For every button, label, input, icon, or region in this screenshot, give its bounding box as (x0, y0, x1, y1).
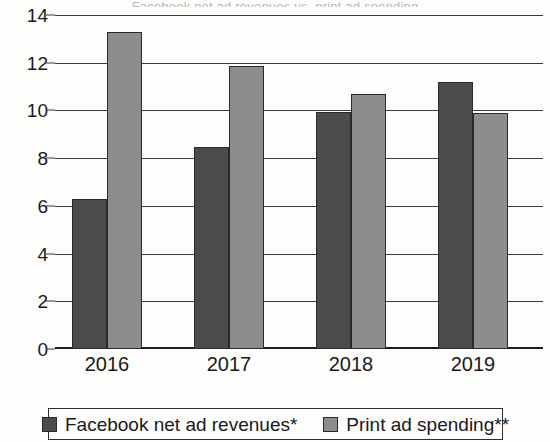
y-axis-tick-mark (46, 62, 55, 63)
gridline (55, 15, 543, 16)
y-axis-tick-mark (46, 158, 55, 159)
x-axis-tick-label: 2019 (451, 354, 496, 374)
y-axis-tick-label: 8 (4, 149, 48, 168)
legend-label: Facebook net ad revenues* (65, 415, 297, 434)
y-axis-tick-mark (46, 253, 55, 254)
y-axis-tick-mark (46, 110, 55, 111)
bar (316, 112, 351, 349)
legend-swatch-icon (42, 417, 57, 432)
bar-chart: Facebook net ad revenues vs. print ad sp… (0, 0, 550, 442)
legend-item: Print ad spending** (323, 415, 509, 434)
y-axis-tick-label: 12 (4, 53, 48, 72)
bar (351, 94, 386, 349)
bar (473, 113, 508, 349)
legend-item: Facebook net ad revenues* (42, 415, 297, 434)
legend-label: Print ad spending** (346, 415, 509, 434)
clipped-title-text: Facebook net ad revenues vs. print ad sp… (0, 0, 550, 7)
x-axis-tick-label: 2016 (85, 354, 130, 374)
y-axis-tick-mark (46, 301, 55, 302)
bar (229, 66, 264, 349)
chart-legend: Facebook net ad revenues*Print ad spendi… (48, 408, 503, 440)
bar (438, 82, 473, 349)
x-axis-tick-label: 2018 (329, 354, 374, 374)
y-axis-tick-mark (46, 205, 55, 206)
y-axis-tick-label: 4 (4, 244, 48, 263)
y-axis-tick-label: 14 (4, 6, 48, 25)
y-axis-tick-mark (46, 15, 55, 16)
y-axis-tick-label: 6 (4, 196, 48, 215)
y-axis-tick-label: 2 (4, 292, 48, 311)
x-axis-tick-label: 2017 (207, 354, 252, 374)
legend-swatch-icon (323, 417, 338, 432)
bar (107, 32, 142, 349)
y-axis-tick-label: 0 (4, 340, 48, 359)
y-axis-labels: 02468101214 (0, 15, 48, 349)
x-axis-labels: 2016201720182019 (55, 354, 543, 382)
bar (72, 199, 107, 349)
y-axis-tick-mark (46, 349, 55, 350)
y-axis-tick-label: 10 (4, 101, 48, 120)
plot-area (55, 15, 543, 349)
bar (194, 147, 229, 349)
